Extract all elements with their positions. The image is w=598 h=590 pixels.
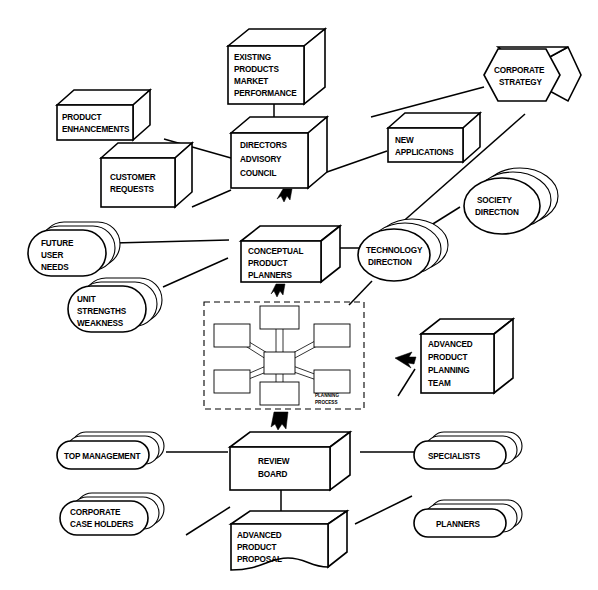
node-label-line: BOARD: [258, 470, 288, 479]
node-review-board[interactable]: REVIEW BOARD: [230, 432, 350, 490]
node-label-line: PROPOSAL: [237, 555, 282, 564]
node-label-line: CONCEPTUAL: [248, 247, 304, 256]
node-label-line: CUSTOMER: [110, 173, 156, 182]
connector-corporate-case-holders-to-review-board: [186, 507, 230, 535]
node-label-line: PRODUCT: [248, 259, 288, 268]
node-label-line: USER: [41, 251, 63, 260]
node-label-line: ADVISORY: [240, 155, 282, 164]
node-label-line: COUNCIL: [240, 169, 276, 178]
node-label-line: PRODUCT: [428, 353, 468, 362]
connector-technology-direction-to-planning: [349, 281, 372, 305]
node-label-line: TECHNOLOGY: [366, 246, 423, 255]
node-label-line: PRODUCT: [237, 543, 277, 552]
connector-unit-strengths-to-cpp: [163, 258, 228, 287]
node-label-line: CASE HOLDERS: [70, 520, 134, 529]
node-label-line: ADVANCED: [237, 531, 282, 540]
connector-customer-requests-to-dac: [192, 190, 231, 207]
node-label-line: REQUESTS: [110, 185, 155, 194]
node-label-line: SOCIETY: [477, 196, 513, 205]
node-label-line: NEW: [395, 136, 414, 145]
node-unit-strengths-weakness[interactable]: UNIT STRENGTHS WEAKNESS: [68, 278, 162, 332]
node-advanced-product-proposal[interactable]: ADVANCED PRODUCT PROPOSAL: [231, 511, 347, 570]
node-label-line: ADVANCED: [428, 340, 473, 349]
node-top-management[interactable]: TOP MANAGEMENT: [57, 432, 164, 469]
node-label-line: WEAKNESS: [77, 319, 124, 328]
node-corporate-strategy[interactable]: CORPORATE STRATEGY: [484, 47, 581, 101]
node-label-line: STRENGTHS: [77, 307, 127, 316]
node-label-line: STRATEGY: [499, 78, 542, 87]
node-label-line: TEAM: [428, 379, 451, 388]
node-label-line: ENHANCEMENTS: [62, 125, 130, 134]
node-label-line: CORPORATE: [494, 66, 545, 75]
arrow-cpp-to-planning-process: [271, 284, 285, 297]
planning-process-label-line: PROCESS: [315, 400, 337, 405]
node-existing-products-market-performance[interactable]: EXISTING PRODUCTS MARKET PERFORMANCE: [228, 29, 325, 104]
node-label-line: CORPORATE: [70, 508, 121, 517]
node-label-line: UNIT: [77, 295, 96, 304]
node-label-line: DIRECTORS: [240, 141, 287, 150]
node-label-line: EXISTING: [234, 53, 271, 62]
connector-planners-to-review-board: [355, 496, 412, 524]
node-label-line: DIRECTION: [475, 208, 519, 217]
connector-future-user-needs-to-cpp: [114, 240, 229, 243]
node-new-applications[interactable]: NEW APPLICATIONS: [388, 113, 480, 162]
node-future-user-needs[interactable]: FUTURE USER NEEDS: [28, 222, 120, 276]
node-product-enhancements[interactable]: PRODUCT ENHANCEMENTS: [57, 90, 150, 140]
arrow-dac-to-cpp: [277, 189, 292, 202]
node-label-line: PRODUCTS: [234, 65, 279, 74]
planning-process-node-upper-left: [214, 324, 250, 347]
node-planners[interactable]: PLANNERS: [414, 500, 522, 537]
planning-process-node-top: [260, 306, 299, 329]
connector-new-applications-to-dac: [327, 151, 387, 172]
node-technology-direction[interactable]: TECHNOLOGY DIRECTION: [358, 219, 448, 281]
node-label-line: DIRECTION: [368, 258, 412, 267]
node-label-line: FUTURE: [41, 239, 74, 248]
planning-process-node-lower-left: [214, 370, 250, 393]
planning-process-node-bottom: [260, 382, 299, 405]
node-advanced-product-planning-team[interactable]: ADVANCED PRODUCT PLANNING TEAM: [421, 319, 513, 393]
node-directors-advisory-council[interactable]: DIRECTORS ADVISORY COUNCIL: [231, 117, 327, 188]
process-flow-diagram: EXISTING PRODUCTS MARKET PERFORMANCE PRO…: [0, 0, 598, 590]
node-label-line: NEEDS: [41, 263, 69, 272]
node-label-line: APPLICATIONS: [395, 148, 454, 157]
node-corporate-case-holders[interactable]: CORPORATE CASE HOLDERS: [60, 493, 164, 535]
arrow-appt-to-planning-process: [395, 352, 416, 368]
node-label-line: PERFORMANCE: [234, 89, 297, 98]
planning-process-hub: [264, 352, 295, 374]
node-label-line: PLANNERS: [248, 271, 293, 280]
arrow-planning-process-to-review-board: [271, 412, 288, 430]
node-conceptual-product-planners[interactable]: CONCEPTUAL PRODUCT PLANNERS: [241, 226, 340, 282]
node-planning-process[interactable]: PLANNING PROCESS: [204, 302, 364, 409]
node-label-line: PLANNERS: [436, 520, 481, 529]
node-label-line: TOP MANAGEMENT: [64, 452, 140, 461]
node-society-direction[interactable]: SOCIETY DIRECTION: [464, 168, 558, 234]
diagram-canvas: EXISTING PRODUCTS MARKET PERFORMANCE PRO…: [0, 0, 598, 590]
node-customer-requests[interactable]: CUSTOMER REQUESTS: [101, 143, 192, 207]
connector-appt-to-planning-process: [398, 369, 415, 396]
node-label-line: PRODUCT: [62, 113, 102, 122]
node-label-line: SPECIALISTS: [428, 452, 481, 461]
node-label-line: REVIEW: [258, 457, 290, 466]
planning-process-node-upper-right: [314, 324, 350, 347]
node-label-line: MARKET: [234, 77, 268, 86]
planning-process-node-lower-right: [314, 370, 350, 393]
planning-process-label-line: PLANNING: [315, 393, 339, 398]
node-label-line: PLANNING: [428, 366, 470, 375]
node-specialists[interactable]: SPECIALISTS: [414, 432, 522, 469]
